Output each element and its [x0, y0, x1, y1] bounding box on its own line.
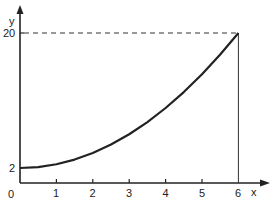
curve-line	[20, 33, 238, 168]
x-tick-label-6: 6	[235, 187, 241, 199]
x-tick-label-4: 4	[163, 187, 169, 199]
chart-canvas: y 20 2 0 1 2 3 4 5 6 x	[0, 0, 278, 204]
y-tick-label-20: 20	[3, 27, 15, 39]
x-axis-label: x	[251, 186, 257, 198]
x-tick-label-2: 2	[90, 187, 96, 199]
x-tick-label-5: 5	[199, 187, 205, 199]
x-axis-arrow-icon	[260, 180, 270, 187]
y-tick-label-2: 2	[9, 162, 15, 174]
x-tick-label-3: 3	[126, 187, 132, 199]
origin-label: 0	[8, 188, 14, 200]
x-tick-label-1: 1	[53, 187, 59, 199]
y-axis-label: y	[9, 15, 15, 27]
y-axis-arrow-icon	[17, 5, 24, 14]
